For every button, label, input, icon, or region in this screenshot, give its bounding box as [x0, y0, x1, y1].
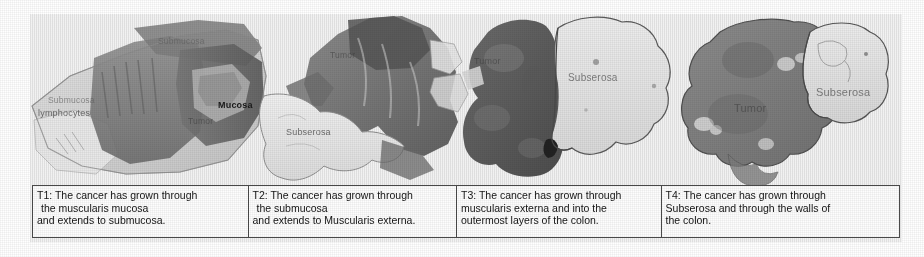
caption-t4-line3: the colon.	[666, 214, 897, 227]
specimen-image-strip: Submucosa Submucosa lymphocytes Mucosa T…	[30, 14, 902, 184]
caption-t1-line2: the muscularis mucosa	[37, 202, 246, 215]
caption-t2-line2: the submucosa	[253, 202, 455, 215]
caption-cell-t4: T4: The cancer has grown through Subsero…	[662, 186, 899, 237]
caption-cell-t1: T1: The cancer has grown through the mus…	[33, 186, 249, 237]
caption-t2-line1: T2: The cancer has grown through	[253, 189, 455, 202]
caption-t3-line1: T3: The cancer has grown through	[461, 189, 659, 202]
caption-cell-t2: T2: The cancer has grown through the sub…	[249, 186, 458, 237]
panel-t2: Tumor Subserosa	[252, 14, 482, 184]
caption-t4-line1: T4: The cancer has grown through	[666, 189, 897, 202]
caption-t3-line3: outermost layers of the colon.	[461, 214, 659, 227]
caption-cell-t3: T3: The cancer has grown through muscula…	[457, 186, 662, 237]
caption-t4-line2: Subserosa and through the walls of	[666, 202, 897, 215]
caption-t1-line3: and extends to submucosa.	[37, 214, 246, 227]
caption-t3-line2: muscularis externa and into the	[461, 202, 659, 215]
tissue-specimen-t3	[458, 14, 680, 184]
tissue-specimen-t1	[30, 14, 270, 184]
panel-t1: Submucosa Submucosa lymphocytes Mucosa T…	[30, 14, 270, 184]
panel-t3: Tumor Subserosa	[458, 14, 680, 184]
panel-t4: Tumor Subserosa	[668, 14, 902, 184]
caption-t2-line3: and extends to Muscularis externa.	[253, 214, 455, 227]
caption-t1-line1: T1: The cancer has grown through	[37, 189, 246, 202]
caption-table: T1: The cancer has grown through the mus…	[32, 185, 900, 238]
tissue-specimen-t4	[668, 14, 902, 184]
figure-root: Submucosa Submucosa lymphocytes Mucosa T…	[0, 0, 924, 257]
tissue-specimen-t2	[252, 14, 482, 184]
